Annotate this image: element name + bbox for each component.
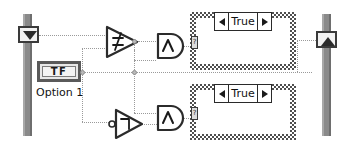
wire-bus-to-and-top-h[interactable] [134,60,156,61]
triangle-left-icon [219,18,225,26]
triangle-down-icon [23,31,37,40]
wire-case-top-to-right-tunnel[interactable] [297,40,316,41]
case-next-arrow-bottom[interactable] [257,85,271,102]
wire-case-top-right-riser[interactable] [297,40,298,72]
wire-tf-branch-up[interactable] [82,48,83,72]
wire-tunnel-to-notequal[interactable] [39,35,107,36]
block-diagram-canvas: TF Option 1 [0,0,348,148]
not-function[interactable] [108,108,146,140]
case-selector-terminal-bottom[interactable]: ? [191,107,198,120]
wire-bus-to-and-bottom[interactable] [134,72,135,113]
wire-tf-main[interactable] [80,72,312,73]
case-selector-label-top[interactable]: True [214,12,272,31]
and-function-bottom[interactable] [155,104,185,132]
case-selector-value-bottom: True [229,85,257,102]
triangle-up-icon [321,37,335,46]
wire-tf-to-not[interactable] [82,122,111,123]
boolean-control-terminal[interactable]: TF [37,61,81,82]
case-next-arrow-top[interactable] [257,13,271,30]
boolean-terminal-label: Option 1 [36,86,83,99]
right-tunnel[interactable] [316,31,337,48]
left-tunnel[interactable] [18,26,39,43]
triangle-right-icon [262,90,268,98]
case-selector-label-bottom[interactable]: True [214,84,272,103]
boolean-terminal-value: TF [42,66,76,77]
triangle-right-icon [262,18,268,26]
wire-junction-bus[interactable] [132,70,137,75]
case-prev-arrow-top[interactable] [215,13,229,30]
case-selector-terminal-top[interactable]: ? [191,36,198,49]
case-selector-value-top: True [229,13,257,30]
triangle-left-icon [219,90,225,98]
wire-junction-notequal[interactable] [132,39,137,44]
case-prev-arrow-bottom[interactable] [215,85,229,102]
and-function-top[interactable] [155,32,185,60]
wire-junction-tf[interactable] [80,70,85,75]
